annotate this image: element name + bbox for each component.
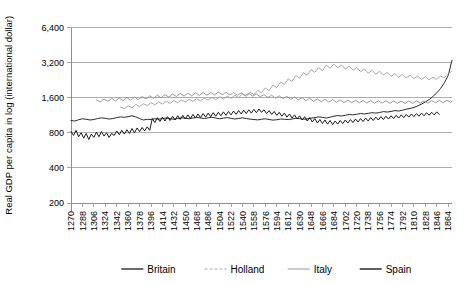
legend-label-holland: Holland bbox=[231, 264, 265, 275]
x-tick-label: 1846 bbox=[432, 211, 442, 231]
y-tick-label: 3,200 bbox=[41, 58, 64, 68]
x-tick-label: 1450 bbox=[181, 211, 191, 231]
x-tick-label: 1414 bbox=[158, 211, 168, 231]
y-axis-group: 6,4003,2001,600800400200 bbox=[41, 23, 71, 211]
chart-legend: BritainHollandItalySpain bbox=[121, 264, 411, 275]
y-tick-label: 200 bbox=[49, 198, 64, 208]
y-axis-title-text: Real GDP per capita in log (internationa… bbox=[3, 16, 14, 215]
x-tick-label: 1342 bbox=[112, 211, 122, 231]
x-tick-label: 1288 bbox=[78, 211, 88, 231]
x-tick-label: 1810 bbox=[409, 211, 419, 231]
chart-container: 6,4003,2001,600800400200 127012881306132… bbox=[0, 0, 465, 285]
x-tick-label: 1468 bbox=[192, 211, 202, 231]
x-tick-label: 1666 bbox=[318, 211, 328, 231]
x-tick-label: 1396 bbox=[146, 211, 156, 231]
y-tick-label: 1,600 bbox=[41, 93, 64, 103]
y-tick-label: 800 bbox=[49, 128, 64, 138]
x-tick-label: 1522 bbox=[226, 211, 236, 231]
x-tick-label: 1828 bbox=[421, 211, 431, 231]
series-group bbox=[71, 60, 452, 139]
legend-label-britain: Britain bbox=[147, 264, 175, 275]
x-tick-label: 1648 bbox=[306, 211, 316, 231]
x-tick-label: 1378 bbox=[135, 211, 145, 231]
x-tick-label: 1612 bbox=[283, 211, 293, 231]
x-tick-label: 1432 bbox=[169, 211, 179, 231]
legend-item-italy[interactable]: Italy bbox=[288, 264, 332, 275]
legend-label-italy: Italy bbox=[314, 264, 332, 275]
x-tick-label: 1738 bbox=[363, 211, 373, 231]
x-tick-label: 1324 bbox=[100, 211, 110, 231]
legend-item-holland[interactable]: Holland bbox=[205, 264, 265, 275]
x-tick-label: 1504 bbox=[215, 211, 225, 231]
x-tick-label: 1630 bbox=[295, 211, 305, 231]
x-tick-label: 1360 bbox=[123, 211, 133, 231]
x-axis-group: 1270128813061324134213601378139614141432… bbox=[66, 203, 453, 231]
y-axis-title: Real GDP per capita in log (internationa… bbox=[3, 16, 14, 215]
x-tick-label: 1576 bbox=[261, 211, 271, 231]
legend-label-spain: Spain bbox=[386, 264, 412, 275]
x-tick-label: 1486 bbox=[203, 211, 213, 231]
x-tick-label: 1306 bbox=[89, 211, 99, 231]
x-tick-label: 1702 bbox=[341, 211, 351, 231]
x-tick-label: 1540 bbox=[238, 211, 248, 231]
gridlines-group bbox=[71, 28, 452, 168]
legend-item-britain[interactable]: Britain bbox=[121, 264, 175, 275]
x-tick-label: 1594 bbox=[272, 211, 282, 231]
legend-item-spain[interactable]: Spain bbox=[360, 264, 412, 275]
x-tick-label: 1270 bbox=[66, 211, 76, 231]
x-tick-label: 1792 bbox=[398, 211, 408, 231]
x-tick-label: 1864 bbox=[443, 211, 453, 231]
x-tick-label: 1720 bbox=[352, 211, 362, 231]
y-tick-label: 400 bbox=[49, 163, 64, 173]
x-tick-label: 1756 bbox=[375, 211, 385, 231]
series-line-spain bbox=[71, 109, 439, 140]
x-tick-label: 1558 bbox=[249, 211, 259, 231]
gdp-line-chart: 6,4003,2001,600800400200 127012881306132… bbox=[0, 0, 465, 285]
x-tick-label: 1684 bbox=[329, 211, 339, 231]
x-tick-label: 1774 bbox=[386, 211, 396, 231]
y-tick-label: 6,400 bbox=[41, 23, 64, 33]
